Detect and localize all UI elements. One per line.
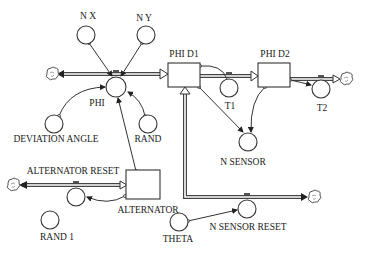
cloud-sink-sensor-icon	[308, 190, 321, 203]
stock-phi-d1[interactable]: PHI D1	[168, 49, 200, 87]
converter-label: N Y	[136, 13, 152, 23]
flow-phi[interactable]: PHI	[89, 77, 126, 108]
pipe-alternator-reset	[19, 181, 127, 189]
converter-n-y[interactable]: N Y	[136, 13, 155, 44]
converter-label: THETA	[163, 234, 194, 244]
converter-label: RAND	[135, 134, 162, 144]
converter-n-sensor[interactable]: N SENSOR	[220, 133, 266, 167]
flow-t1[interactable]: T1	[220, 79, 238, 111]
cloud-sink-t2-icon	[340, 72, 353, 85]
flow-label: N SENSOR RESET	[209, 222, 286, 232]
cloud-sink-alternator-icon	[7, 178, 20, 191]
flow-t2[interactable]: T2	[312, 80, 330, 113]
flow-label: PHI	[89, 98, 104, 108]
converter-label: DEVIATION ANGLE	[13, 134, 98, 144]
cloud-source-phi-icon	[46, 67, 59, 80]
flow-label: T2	[317, 103, 328, 113]
converter-deviation-angle[interactable]: DEVIATION ANGLE	[13, 115, 98, 144]
flow-n-sensor-reset[interactable]: N SENSOR RESET	[209, 200, 286, 232]
converter-rand[interactable]: RAND	[135, 115, 162, 144]
converter-theta[interactable]: THETA	[163, 213, 194, 244]
stock-label: ALTERNATOR	[117, 205, 179, 215]
converter-rand-1[interactable]: RAND 1	[40, 211, 74, 242]
converter-label: N X	[80, 11, 96, 21]
stock-alternator[interactable]: ALTERNATOR	[117, 170, 179, 215]
flow-label: T1	[225, 101, 236, 111]
flow-label: ALTERNATOR RESET	[27, 166, 120, 176]
converter-label: RAND 1	[40, 232, 74, 242]
converter-label: N SENSOR	[220, 157, 266, 167]
stock-label: PHI D1	[169, 49, 199, 59]
stock-label: PHI D2	[260, 49, 290, 59]
stock-phi-d2[interactable]: PHI D2	[258, 49, 290, 87]
converter-n-x[interactable]: N X	[77, 11, 96, 44]
stock-flow-diagram: PHI D1 PHI D2 ALTERNATOR PHI T1 T2 ALTER…	[0, 0, 365, 264]
